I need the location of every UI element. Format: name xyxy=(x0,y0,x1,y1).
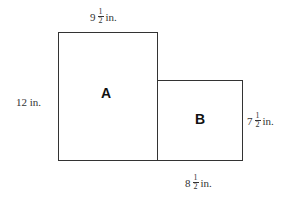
b-width-label: 8 12 in. xyxy=(185,174,212,191)
rectangle-b-label: B xyxy=(195,111,205,127)
rectangle-a-label: A xyxy=(101,85,111,101)
b-height-label: 7 12 in. xyxy=(247,112,274,129)
a-height-label: 12 in. xyxy=(16,96,41,108)
a-width-label: 9 12 in. xyxy=(90,8,117,25)
